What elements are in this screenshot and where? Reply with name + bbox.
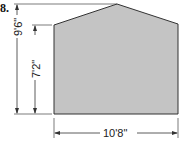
diagram-canvas: 8. 9'6" 7'2" 10'8" xyxy=(0,0,179,141)
wall-height-label: 7'2" xyxy=(30,60,42,78)
width-label: 10'8" xyxy=(103,127,127,139)
gable-wall-shape xyxy=(54,4,178,114)
overall-height-label: 9'6" xyxy=(12,18,24,36)
problem-number: 8. xyxy=(0,1,9,15)
